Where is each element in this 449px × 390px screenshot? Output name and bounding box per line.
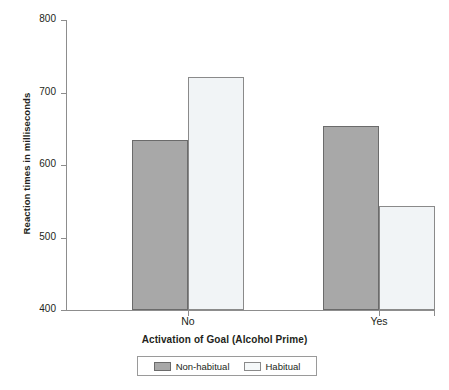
y-axis-tick-label: 700 — [39, 86, 56, 97]
legend-label: Habitual — [266, 361, 301, 372]
x-axis-category-label: Yes — [339, 315, 419, 327]
x-axis-title: Activation of Goal (Alcohol Prime) — [0, 334, 449, 345]
legend-entry: Non-habitual — [154, 361, 230, 372]
y-axis-tick: 800 — [61, 20, 67, 21]
legend-swatch-icon — [154, 362, 171, 371]
bar-habitual-no — [188, 77, 244, 310]
y-axis-tick: 600 — [61, 165, 67, 166]
x-axis-line — [66, 310, 435, 311]
legend-swatch-icon — [244, 362, 261, 371]
bar-chart-figure: Reaction times in milliseconds 400500600… — [0, 0, 449, 390]
y-axis-tick: 500 — [61, 238, 67, 239]
y-axis-tick-label: 600 — [39, 158, 56, 169]
y-axis-title: Reaction times in milliseconds — [21, 64, 32, 264]
y-axis-tick: 700 — [61, 93, 67, 94]
chart-legend: Non-habitualHabitual — [137, 356, 317, 376]
plot-area: 400500600700800NoYes — [66, 21, 435, 311]
y-axis-tick-label: 400 — [39, 303, 56, 314]
legend-entry: Habitual — [244, 361, 301, 372]
x-axis-category-label: No — [148, 315, 228, 327]
y-axis-tick: 400 — [61, 310, 67, 311]
bar-non-habitual-no — [132, 140, 188, 310]
y-axis-tick-label: 500 — [39, 231, 56, 242]
y-axis-line — [66, 21, 67, 311]
bar-habitual-yes — [379, 206, 435, 310]
bar-non-habitual-yes — [323, 126, 379, 310]
y-axis-tick-label: 800 — [39, 13, 56, 24]
legend-label: Non-habitual — [176, 361, 230, 372]
x-axis-tick-end — [434, 310, 435, 316]
